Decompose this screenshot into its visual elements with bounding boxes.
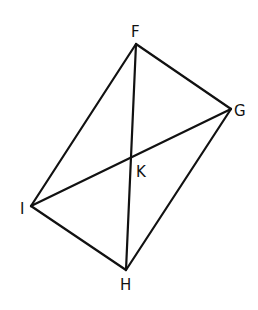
side-FG [136,44,231,109]
vertex-label-k: K [136,163,147,181]
edges-group [31,44,231,270]
labels-group: FGKIH [20,23,246,294]
diagonal-IG [31,109,231,206]
side-HI [31,206,126,270]
vertex-label-h: H [120,276,131,294]
vertex-label-i: I [20,200,24,218]
vertex-label-g: G [234,102,246,120]
vertex-label-f: F [131,23,140,41]
quadrilateral-diagram: FGKIH [0,0,258,310]
side-GH [126,109,231,270]
